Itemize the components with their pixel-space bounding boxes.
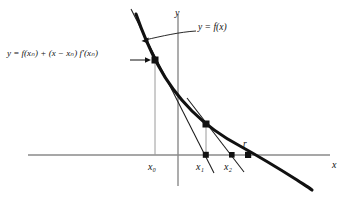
- annotation-arrows-group: [130, 31, 196, 63]
- x1-tick-label: x₁: [196, 162, 204, 172]
- curve-eq-arrow-shaft: [145, 31, 196, 40]
- tangent-eq-arrowhead: [145, 57, 151, 63]
- axes-group: [28, 14, 330, 186]
- x2-tick-label: x₂: [224, 162, 232, 172]
- root-label: r: [243, 140, 247, 150]
- marker-tangent-point-x0: [152, 57, 159, 64]
- diagram-canvas: [0, 0, 359, 206]
- marker-x2-on-axis: [229, 152, 235, 158]
- tangent-equation-label: y = f(xₙ) + (x − xₙ) f′(xₙ): [7, 49, 98, 58]
- marker-root-r: [245, 152, 251, 158]
- newton-method-figure: y = f(xₙ) + (x − xₙ) f′(xₙ) y = f(x) y x…: [0, 0, 359, 206]
- marker-tangent-point-x1: [203, 121, 210, 128]
- x0-tick-label: x₀: [148, 162, 156, 172]
- tangent-lines-group: [131, 9, 244, 173]
- x-axis-label: x: [332, 160, 336, 170]
- y-axis-label: y: [175, 8, 179, 18]
- curve-equation-label: y = f(x): [198, 23, 227, 33]
- marker-x1-on-axis: [203, 152, 209, 158]
